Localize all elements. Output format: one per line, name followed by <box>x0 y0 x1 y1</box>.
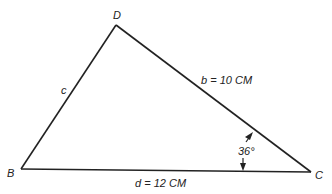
vertex-label-d: D <box>113 9 121 21</box>
arrow-head-lower-icon <box>240 163 246 171</box>
side-label-b: b = 10 CM <box>201 74 253 86</box>
vertex-label-b: B <box>7 167 14 179</box>
arrow-head-upper-icon <box>245 132 253 140</box>
side-b <box>116 25 311 172</box>
angle-label: 36° <box>238 145 255 157</box>
side-c <box>21 25 116 169</box>
side-d <box>21 169 311 172</box>
side-label-c: c <box>61 84 67 96</box>
side-label-d: d = 12 CM <box>135 177 187 189</box>
triangle-diagram: D B C c b = 10 CM d = 12 CM 36° <box>0 0 332 194</box>
vertex-label-c: C <box>315 169 323 181</box>
